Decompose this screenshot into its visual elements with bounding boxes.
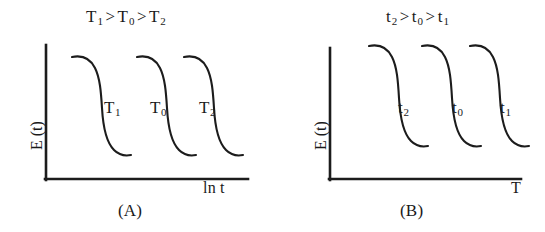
panel-a-curve-label-3: T2 — [199, 99, 216, 116]
panel-a: T1>T0>T2 E (t) ln t T1 T0 T2 (A) — [0, 0, 272, 232]
panel-a-curve-label-1: T1 — [104, 99, 121, 116]
panel-b-curve-3 — [470, 45, 529, 146]
panel-b-curve-2 — [422, 45, 481, 146]
panel-a-caption: (A) — [118, 202, 142, 219]
figure-canvas: T1>T0>T2 E (t) ln t T1 T0 T2 (A) t2>t0>t… — [0, 0, 545, 232]
panel-b-x-axis-label: T — [511, 180, 521, 196]
panel-a-x-axis-label: ln t — [203, 180, 225, 196]
panel-b-curve-sub-3: 1 — [505, 106, 511, 118]
panel-b-curve-1 — [369, 45, 428, 146]
panel-a-y-axis-label: E (t) — [28, 121, 46, 150]
panel-a-plot — [0, 0, 272, 232]
panel-a-curve-1 — [72, 56, 131, 155]
panel-b-curve-label-1: t2 — [398, 99, 409, 116]
panel-b: t2>t0>t1 E (t) T t2 t0 t1 (B) — [272, 0, 545, 232]
panel-b-curve-sub-2: 0 — [457, 106, 463, 118]
panel-b-curve-label-2: t0 — [452, 99, 463, 116]
panel-b-curve-label-3: t1 — [500, 99, 511, 116]
panel-b-y-axis-label: E (t) — [312, 121, 330, 150]
panel-a-curve-sub-1: 1 — [115, 106, 121, 118]
panel-a-curve-label-2: T0 — [150, 99, 167, 116]
panel-a-curve-sub-2: 0 — [161, 106, 167, 118]
panel-a-curve-sub-3: 2 — [210, 106, 216, 118]
panel-b-caption: (B) — [400, 202, 423, 219]
panel-b-curve-sub-1: 2 — [403, 106, 409, 118]
